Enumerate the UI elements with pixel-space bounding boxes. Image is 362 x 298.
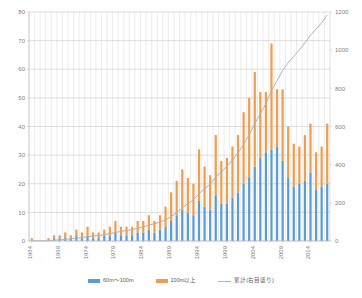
bar-segment-60-100m	[315, 189, 317, 241]
bottom-axis-tick-label: 2004	[250, 245, 256, 259]
bottom-axis-tick-label: 1964	[27, 245, 33, 259]
bar-segment-over-100m	[64, 232, 66, 238]
bar-segment-over-100m	[315, 152, 317, 189]
bar-segment-60-100m	[187, 212, 189, 241]
right-axis-tick-label: 800	[335, 86, 346, 92]
bar-segment-60-100m	[282, 161, 284, 241]
bar-segment-60-100m	[276, 147, 278, 241]
bottom-axis-tick-label: 1999	[222, 245, 228, 259]
bar-segment-60-100m	[293, 187, 295, 241]
right-axis-tick-label: 1000	[335, 47, 349, 53]
bar-segment-60-100m	[321, 187, 323, 241]
bottom-axis-tick-label: 1974	[83, 245, 89, 259]
legend-series-60-100m[interactable]: 60m〜100m	[88, 278, 133, 284]
bar-segment-over-100m	[203, 167, 205, 207]
bar-segment-over-100m	[242, 112, 244, 184]
bar-segment-over-100m	[86, 227, 88, 236]
bar-segment-60-100m	[125, 235, 127, 241]
bar-segment-60-100m	[215, 195, 217, 241]
bar-segment-over-100m	[92, 232, 94, 238]
left-axis-tick-label: 10	[18, 210, 25, 216]
bottom-axis-tick-label: 1994	[194, 245, 200, 259]
bar-segment-over-100m	[220, 161, 222, 204]
bar-segment-60-100m	[164, 227, 166, 241]
bottom-axis-tick-label: 1989	[166, 245, 172, 259]
bar-segment-over-100m	[248, 98, 250, 178]
bar-segment-over-100m	[209, 175, 211, 209]
legend-item-label: 累計(右目盛り)	[234, 278, 274, 284]
bar-segment-over-100m	[259, 92, 261, 158]
bar-segment-60-100m	[265, 152, 267, 241]
bar-segment-60-100m	[114, 232, 116, 241]
bar-segment-over-100m	[304, 135, 306, 181]
bar-segment-over-100m	[53, 235, 55, 238]
left-axis-tick-label: 30	[18, 152, 25, 158]
bar-segment-60-100m	[287, 178, 289, 241]
legend-color-swatch	[88, 279, 100, 283]
bar-segment-over-100m	[153, 221, 155, 232]
bar-segment-60-100m	[304, 181, 306, 241]
chart-legend: 60m〜100m100m以上累計(右目盛り)	[0, 274, 362, 288]
bar-segment-60-100m	[142, 232, 144, 241]
bar-segment-over-100m	[321, 147, 323, 187]
bar-segment-over-100m	[148, 215, 150, 229]
bar-segment-60-100m	[153, 232, 155, 241]
bar-segment-over-100m	[114, 221, 116, 232]
bar-segment-over-100m	[70, 235, 72, 238]
bar-segment-over-100m	[326, 124, 328, 184]
bar-segment-60-100m	[98, 238, 100, 241]
bar-segment-60-100m	[309, 172, 311, 241]
bar-segment-over-100m	[231, 147, 233, 199]
bar-segment-60-100m	[192, 215, 194, 241]
left-axis-tick-label: 40	[18, 124, 25, 130]
bottom-axis-tick-label: 2009	[278, 245, 284, 259]
left-axis-ticks: 01020304050607080	[18, 9, 29, 244]
right-axis-tick-label: 400	[335, 162, 346, 168]
bar-segment-over-100m	[293, 144, 295, 187]
bar-segment-60-100m	[254, 167, 256, 241]
legend-item-label: 100m以上	[171, 278, 197, 284]
legend-series-cumulative[interactable]: 累計(右目盛り)	[218, 278, 274, 284]
legend-series-over-100m[interactable]: 100m以上	[156, 278, 197, 284]
right-axis-ticks: 020040060080010001200	[330, 9, 349, 244]
bar-segment-over-100m	[215, 135, 217, 195]
bar-segment-over-100m	[131, 227, 133, 236]
bar-segment-over-100m	[270, 43, 272, 149]
bottom-axis-tick-label: 1969	[55, 245, 61, 259]
bar-segment-60-100m	[237, 192, 239, 241]
left-axis-tick-label: 60	[18, 66, 25, 72]
left-axis-tick-label: 70	[18, 38, 25, 44]
bar-segment-60-100m	[92, 238, 94, 241]
bar-segment-60-100m	[137, 232, 139, 241]
bottom-axis-tick-label: 1979	[110, 245, 116, 259]
bar-segment-over-100m	[187, 178, 189, 212]
bar-segment-60-100m	[270, 149, 272, 241]
bar-segment-over-100m	[137, 221, 139, 232]
bar-segment-over-100m	[309, 124, 311, 173]
bar-segment-60-100m	[148, 230, 150, 241]
bar-segment-over-100m	[181, 169, 183, 209]
bar-segment-over-100m	[237, 135, 239, 192]
bar-segment-60-100m	[326, 184, 328, 241]
bar-segment-60-100m	[120, 235, 122, 241]
right-axis-tick-label: 0	[335, 238, 339, 244]
bar-segment-over-100m	[75, 230, 77, 236]
bar-segment-60-100m	[220, 204, 222, 241]
legend-item-label: 60m〜100m	[103, 278, 133, 284]
legend-line-marker	[218, 281, 231, 282]
chart-svg: 0102030405060708002004006008001000120019…	[0, 0, 362, 262]
bar-segment-over-100m	[298, 147, 300, 184]
bar-segment-60-100m	[209, 210, 211, 241]
bar-segment-60-100m	[298, 184, 300, 241]
chart-plot-area: 0102030405060708002004006008001000120019…	[0, 0, 362, 262]
bar-segment-60-100m	[242, 184, 244, 241]
left-axis-tick-label: 50	[18, 95, 25, 101]
bar-segment-60-100m	[176, 215, 178, 241]
chart-container: 0102030405060708002004006008001000120019…	[0, 0, 362, 298]
bar-segment-over-100m	[164, 207, 166, 227]
left-axis-tick-label: 0	[22, 238, 26, 244]
bar-segment-60-100m	[203, 207, 205, 241]
bar-segment-60-100m	[170, 221, 172, 241]
bar-segment-60-100m	[198, 201, 200, 241]
bottom-axis-tick-label: 2014	[305, 245, 311, 259]
